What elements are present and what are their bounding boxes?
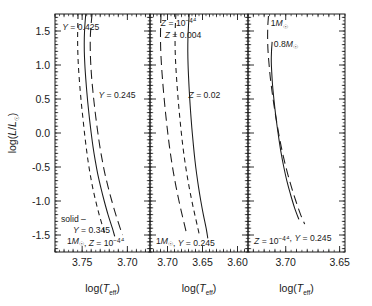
xtick-label-2-0: 3.70 [276,256,297,268]
curve-label-1-0: Z = 10−4⁴ [160,15,197,28]
ytick-label-1: -1.0 [32,195,50,207]
curve-label-2-1: 0.8M☉ [274,39,298,50]
footer-line-1-0: 1M☉, Y = 0.245 [156,236,215,248]
panel-frame-1 [150,14,248,252]
xtick-label-1-0: 3.70 [157,256,178,268]
panel-1: 3.703.653.60Z = 10−4⁴Z = 0.004Z = 0.021M… [150,14,248,268]
ytick-label-2: -0.5 [32,161,50,173]
curve-z-0-02 [188,14,208,238]
curve-z-10-4 [160,14,186,235]
footer-line-0-1: Y = 0.345 [73,225,110,235]
xaxis-label-2: log(Teff) [279,282,313,296]
xtick-label-1-2: 3.60 [227,256,248,268]
curve-y-0-345 [84,14,114,236]
ytick-label-4: 0.5 [35,93,50,105]
xtick-label-1-1: 3.65 [192,256,213,268]
xtick-label-0-1: 3.70 [117,256,138,268]
ytick-label-3: 0.0 [35,127,50,139]
curve-label-2-0: 1M☉ [271,18,288,29]
curve-0-8-msun [271,42,299,219]
curve-label-0-2: Y = 0.245 [98,90,135,100]
stellar-tracks-figure: 3.753.70Y = 0.425Y = 0.245solid –Y = 0.3… [0,0,372,306]
xaxis-label-0: log(Teff) [85,282,119,296]
footer-line-0-2: 1M☉, Z = 10−4⁴ [67,235,125,248]
xtick-label-2-1: 3.65 [329,256,350,268]
panel-0: 3.753.70Y = 0.425Y = 0.245solid –Y = 0.3… [55,14,150,268]
footer-line-2-0: Z = 10−4⁴, Y = 0.245 [253,233,332,246]
curve-y-0-245 [90,14,122,235]
footer-line-0-0: solid – [61,214,86,224]
curve-label-0-0: Y = 0.425 [62,22,99,32]
curve-y-0-425 [78,14,106,236]
panel-2: 3.703.651M☉0.8M☉Z = 10−4⁴, Y = 0.245 [248,14,350,268]
xtick-label-0-0: 3.75 [72,256,93,268]
curve-label-1-1: Z = 0.004 [164,30,202,40]
xaxis-label-1: log(Teff) [182,282,216,296]
ytick-label-0: -1.5 [32,229,50,241]
yaxis-label: log(L/L☉) [6,113,20,154]
ytick-label-5: 1.0 [35,59,50,71]
curve-label-1-2: Z = 0.02 [188,90,221,100]
figure-canvas: 3.753.70Y = 0.425Y = 0.245solid –Y = 0.3… [0,0,372,306]
ytick-label-6: 1.5 [35,25,50,37]
